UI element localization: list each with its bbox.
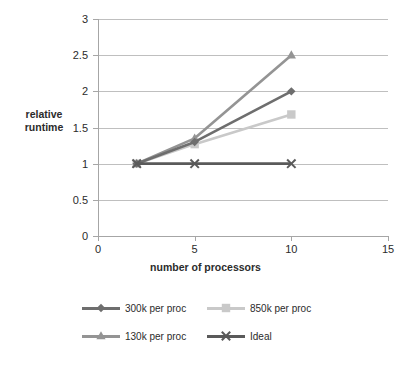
y-axis-title: relative runtime [8,108,80,134]
legend-item-130k-per-proc[interactable]: 130k per proc [82,328,207,344]
gridline [98,128,388,129]
legend-marker-triangle-icon [95,330,107,342]
legend-label: 300k per proc [125,303,186,314]
legend-label: 850k per proc [250,303,311,314]
y-axis-tick [93,55,98,56]
y-axis-tick-label: 2.5 [0,49,88,61]
y-tick-label-wrap: 2.5 [0,55,88,67]
x-axis-tick-label: 15 [382,243,394,255]
gridline [98,164,388,165]
legend-item-ideal[interactable]: Ideal [207,328,332,344]
x-axis-tick-label: 5 [192,243,198,255]
y-axis-tick-label: 3 [0,13,88,25]
y-tick-label-wrap: 0.5 [0,200,88,212]
x-axis-tick-label: 0 [95,243,101,255]
x-axis-tick-label: 10 [285,243,297,255]
y-axis-tick-label: 0 [0,230,88,242]
legend-marker-diamond-icon [95,302,107,314]
line-chart: 00.511.522.53 051015 relative runtime nu… [0,0,411,367]
x-axis-title: number of processors [0,261,411,273]
y-tick-label-wrap: 1 [0,164,88,176]
x-axis-tick [195,236,196,241]
gridline [98,91,388,92]
y-axis-tick [93,128,98,129]
legend-swatch [82,329,120,343]
y-axis-title-line2: runtime [8,121,80,134]
y-axis-tick [93,19,98,20]
y-axis-tick [93,164,98,165]
legend-marker-x-icon [220,330,232,342]
gridline [98,200,388,201]
gridline [98,55,388,56]
gridline [98,236,388,237]
x-axis-tick [291,236,292,241]
legend-swatch [207,329,245,343]
legend-label: Ideal [250,331,272,342]
x-axis-tick [388,236,389,241]
chart-legend: 300k per proc850k per proc130k per procI… [82,300,382,344]
y-axis-title-line1: relative [8,108,80,121]
x-axis-tick [98,236,99,241]
y-axis-tick [93,200,98,201]
y-axis-tick-label: 2 [0,85,88,97]
legend-marker-square-icon [220,302,232,314]
y-tick-label-wrap: 2 [0,91,88,103]
gridline [98,19,388,20]
y-tick-label-wrap: 0 [0,236,88,248]
y-axis-tick-label: 1 [0,158,88,170]
legend-item-300k-per-proc[interactable]: 300k per proc [82,300,207,316]
legend-label: 130k per proc [125,331,186,342]
legend-swatch [207,301,245,315]
legend-swatch [82,301,120,315]
legend-item-850k-per-proc[interactable]: 850k per proc [207,300,332,316]
y-axis-tick [93,91,98,92]
y-axis-line [98,19,99,237]
y-axis-tick-label: 0.5 [0,194,88,206]
plot-area [98,19,388,236]
y-tick-label-wrap: 3 [0,19,88,31]
